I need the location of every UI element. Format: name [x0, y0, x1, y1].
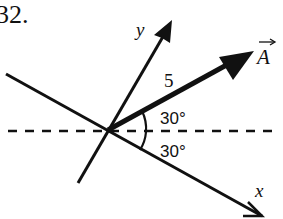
angle-arc-lower [140, 132, 146, 150]
x-axis-label: x [254, 180, 264, 201]
vector-magnitude-label: 5 [164, 70, 174, 91]
problem-number: 32. [0, 0, 29, 29]
angle-label-lower: 30° [160, 142, 186, 161]
angle-label-upper: 30° [160, 109, 186, 128]
vector-a-label: A [255, 45, 270, 69]
x-axis [6, 74, 262, 216]
y-axis-label: y [134, 19, 145, 40]
x-axis-arrow-icon [243, 202, 262, 216]
vector-diagram: 32. y x 5 A 30° 30° [0, 0, 283, 219]
vector-a-arrowhead-icon [219, 51, 254, 80]
angle-arc-upper [142, 111, 146, 132]
